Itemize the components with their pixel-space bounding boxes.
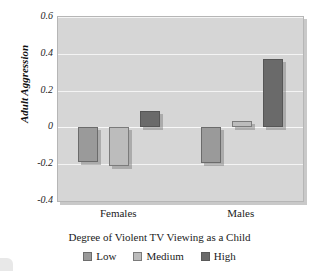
chart-caption: Degree of Violent TV Viewing as a Child: [0, 231, 319, 243]
legend-label: Medium: [146, 250, 183, 262]
chart-figure: 0.60.40.20-0.2-0.4 Adult Aggression Fema…: [0, 0, 319, 271]
chart-legend: LowMediumHigh: [0, 250, 319, 262]
bar-males-low: [201, 127, 221, 163]
legend-label: Low: [96, 250, 116, 262]
legend-item-medium: Medium: [133, 250, 183, 262]
page-corner-artifact: [0, 258, 13, 271]
legend-item-low: Low: [83, 250, 116, 262]
y-axis-title: Adult Aggression: [18, 14, 30, 154]
y-tick-label: 0.4: [7, 48, 53, 58]
gridline: [58, 201, 303, 202]
legend-swatch-icon: [83, 252, 92, 261]
bar-females-low: [78, 127, 98, 162]
bar-males-medium: [232, 121, 252, 127]
legend-label: High: [214, 250, 236, 262]
y-tick-label: -0.4: [7, 195, 53, 205]
bar-females-medium: [109, 127, 129, 166]
y-tick-label: -0.2: [7, 158, 53, 168]
x-label-females: Females: [57, 207, 180, 219]
gridline: [58, 17, 303, 18]
y-tick-label: 0.6: [7, 11, 53, 21]
y-tick-label: 0: [7, 121, 53, 131]
bar-females-high: [140, 111, 160, 127]
legend-swatch-icon: [201, 252, 210, 261]
legend-item-high: High: [201, 250, 236, 262]
legend-swatch-icon: [133, 252, 142, 261]
x-label-males: Males: [180, 207, 303, 219]
bar-males-high: [263, 59, 283, 127]
gridline: [58, 54, 303, 55]
plot-area: [57, 16, 304, 202]
y-tick-label: 0.2: [7, 85, 53, 95]
cropped-title-remnant: [95, 0, 245, 4]
